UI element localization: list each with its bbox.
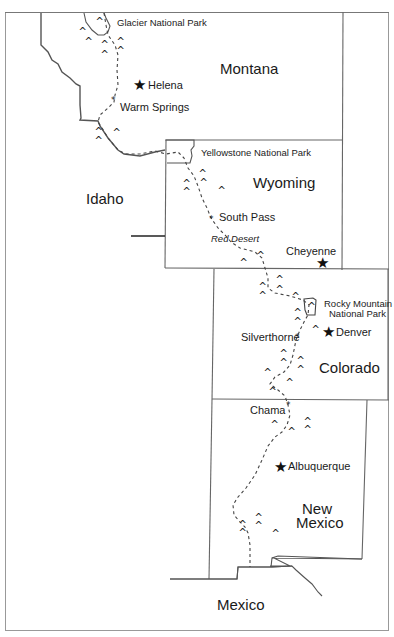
mountain-icon: ^ [270,419,278,430]
state-label-montana: Montana [220,61,278,76]
waypoint-label-silverthorne: Silverthorne [241,332,300,343]
mountain-icon: ^ [271,528,279,539]
new-mexico-south-border [170,558,362,579]
mountain-icon: ^ [268,386,276,397]
colorado-south-border [212,399,389,400]
waypoint-label-chama: Chama [250,405,285,416]
mountain-icon: ^ [112,127,120,138]
wyoming-south-border [165,268,389,269]
mountain-icon: ^ [95,16,103,27]
mountain-icon: ^ [84,36,92,47]
waypoint-label-south-pass: South Pass [219,212,275,223]
wyoming-west-border [165,140,166,268]
mountain-icon: ^ [258,290,266,301]
new-mexico-east-border [362,400,367,559]
mountain-icon: ^ [296,364,304,375]
state-label-colorado: Colorado [319,360,380,375]
mountain-icon: ^ [94,135,102,146]
waypoint-star-south-pass: * [209,215,214,224]
yellowstone-outline [166,140,194,163]
montana-east-border [342,12,343,270]
mountain-icon: ^ [303,424,311,435]
mountain-icon: ^ [100,49,108,60]
mountain-icon: ^ [293,316,301,327]
mountain-icon: ^ [238,527,246,538]
mountain-icon: ^ [279,357,287,368]
state-label-new-mexico-line2: Mexico [296,515,344,530]
mountain-icon: ^ [307,301,315,312]
capital-star-denver: ★ [322,325,335,340]
mountain-icon: ^ [275,284,283,295]
mountain-icon: ^ [287,426,295,437]
state-label-wyoming: Wyoming [253,175,315,190]
mountain-icon: ^ [263,367,271,378]
city-label-helena: Helena [148,80,183,91]
capital-star-cheyenne: ★ [316,256,329,271]
capital-star-helena: ★ [133,78,146,93]
mountain-icon: ^ [285,377,293,388]
mountain-icon: ^ [199,177,207,188]
waypoint-label-warm-springs: Warm Springs [120,102,189,113]
colorado-west-border [212,269,214,400]
state-label-idaho: Idaho [86,191,124,206]
park-label-rocky-mountain-line2: National Park [329,309,386,319]
city-label-denver: Denver [336,327,371,338]
mountain-icon: ^ [256,250,264,261]
mountain-icon: ^ [217,185,225,196]
mountain-icon: ^ [116,45,124,56]
map-frame [6,13,389,631]
mountain-icon: ^ [291,291,299,302]
waypoint-star-chama: * [286,401,291,410]
park-label-glacier: Glacier National Park [117,18,207,28]
mountain-icon: ^ [311,324,319,335]
park-label-yellowstone: Yellowstone National Park [201,148,311,158]
country-label-mexico: Mexico [217,597,265,612]
capital-star-albuquerque: ★ [274,460,287,475]
feature-label-red-desert: Red Desert [211,234,259,244]
mexico-border-rio-grande [170,566,322,596]
mountain-icon: ^ [239,257,247,268]
mountain-icon: ^ [254,520,262,531]
new-mexico-west-border [209,400,212,579]
city-label-albuquerque: Albuquerque [288,461,350,472]
waypoint-star-silverthorne: * [295,333,300,342]
mountain-icon: ^ [182,186,190,197]
waypoint-star-warm-springs: * [111,96,116,105]
